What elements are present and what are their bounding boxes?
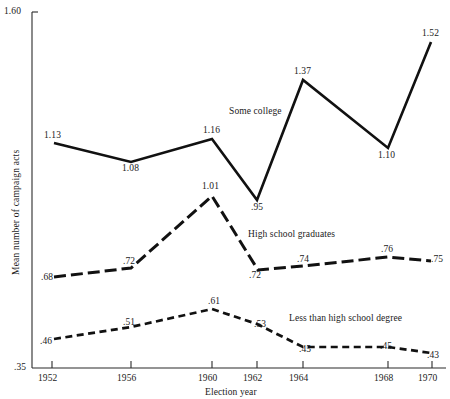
point-label-some-college-1956: 1.08 xyxy=(122,164,139,174)
point-label-some-college-1970: 1.52 xyxy=(422,29,439,39)
point-label-less-than-high-school-1952: .46 xyxy=(40,337,52,347)
y-axis-max-label: 1.60 xyxy=(4,7,21,17)
x-tick-label-1968: 1968 xyxy=(374,374,393,384)
point-label-some-college-1962: .95 xyxy=(251,203,263,213)
point-label-some-college-1952: 1.13 xyxy=(44,131,61,141)
point-label-less-than-high-school-1968: .45 xyxy=(380,342,392,352)
x-tick-label-1956: 1956 xyxy=(117,374,136,384)
y-axis-title: Mean number of campaign acts xyxy=(12,150,22,275)
series-annotation-some-college: Some college xyxy=(229,107,282,117)
point-label-some-college-1964: 1.37 xyxy=(294,67,311,77)
plot-area xyxy=(0,0,450,399)
point-label-high-school-1952: .68 xyxy=(41,273,53,283)
x-tick-label-1962: 1962 xyxy=(243,374,262,384)
point-label-high-school-1968: .76 xyxy=(381,245,393,255)
x-tick-label-1952: 1952 xyxy=(38,374,57,384)
x-tick-label-1964: 1964 xyxy=(289,374,308,384)
x-tick-label-1960: 1960 xyxy=(198,374,217,384)
series-annotation-high-school-graduates: High school graduates xyxy=(248,230,335,240)
series-line-high-school-graduates xyxy=(54,196,431,277)
campaign-acts-line-chart: 1.60 .35 Mean number of campaign acts 19… xyxy=(0,0,450,399)
point-label-less-than-high-school-1962: .53 xyxy=(254,320,266,330)
point-label-less-than-high-school-1956: .51 xyxy=(123,318,135,328)
point-label-high-school-1962: .72 xyxy=(249,271,261,281)
point-label-high-school-1964: .74 xyxy=(297,255,309,265)
series-annotation-less-than-high-school: Less than high school degree xyxy=(289,314,402,324)
point-label-some-college-1960: 1.16 xyxy=(203,126,220,136)
x-tick-label-1970: 1970 xyxy=(418,374,437,384)
series-line-some-college xyxy=(54,42,431,200)
x-axis-title: Election year xyxy=(205,388,257,398)
point-label-some-college-1968: 1.10 xyxy=(378,151,395,161)
point-label-high-school-1956: .72 xyxy=(123,257,135,267)
point-label-high-school-1960: 1.01 xyxy=(202,182,219,192)
point-label-less-than-high-school-1960: .61 xyxy=(208,297,220,307)
y-axis-min-label: .35 xyxy=(14,363,26,373)
point-label-high-school-1970: .75 xyxy=(431,255,443,265)
point-label-less-than-high-school-1970: .43 xyxy=(427,351,439,361)
point-label-less-than-high-school-1964: .45 xyxy=(299,345,311,355)
